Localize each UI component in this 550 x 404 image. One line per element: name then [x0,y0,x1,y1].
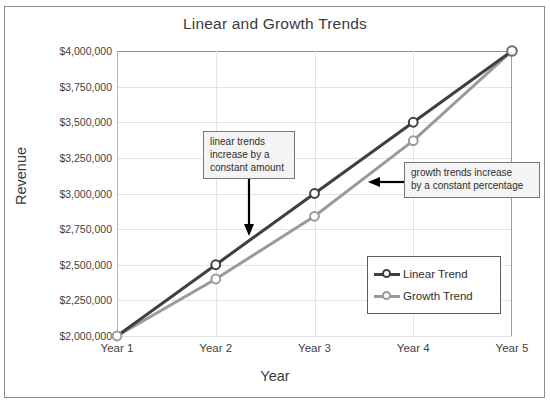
annotation-line: constant amount [210,162,288,175]
x-tick-label: Year 1 [101,342,134,354]
x-tick-label: Year 4 [397,342,430,354]
annotation-line: by a constant percentage [411,180,533,193]
legend-item-growth-trend: Growth Trend [374,285,500,307]
x-tick-label: Year 5 [496,342,529,354]
vertical-gridline [315,51,316,336]
y-tick-label: $4,000,000 [2,45,112,57]
legend-label: Linear Trend [403,268,468,280]
annotation-callout-growth: growth trends increase by a constant per… [404,162,540,198]
chart-title: Linear and Growth Trends [0,15,550,33]
gridline [117,336,512,337]
y-tick-label: $2,000,000 [2,330,112,342]
annotation-line: growth trends increase [411,167,533,180]
y-tick-label: $2,250,000 [2,294,112,306]
annotation-callout-linear: linear trends increase by a constant amo… [203,131,295,179]
vertical-gridline [216,51,217,336]
chart-legend: Linear Trend Growth Trend [367,256,501,314]
y-tick-label: $3,750,000 [2,81,112,93]
legend-marker-icon [374,268,400,280]
x-axis-title: Year [0,368,550,384]
x-tick-label: Year 3 [298,342,331,354]
y-axis-line [117,51,118,336]
annotation-line: increase by a [210,149,288,162]
legend-marker-icon [374,290,400,302]
annotation-line: linear trends [210,136,288,149]
legend-item-linear-trend: Linear Trend [374,263,500,285]
y-tick-label: $2,500,000 [2,259,112,271]
y-axis-title: Revenue [13,121,29,231]
legend-label: Growth Trend [403,290,473,302]
chart-figure: Linear and Growth Trends $4,000,000 $3,7… [0,0,550,404]
x-tick-label: Year 2 [199,342,232,354]
